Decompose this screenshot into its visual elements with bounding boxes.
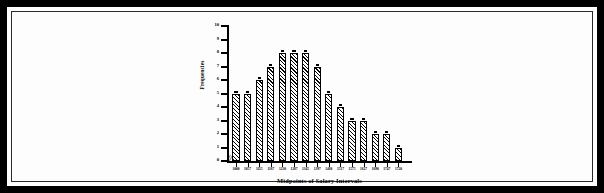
- bar-top-marker: [281, 50, 284, 52]
- y-axis-tick-label: 9: [205, 37, 219, 42]
- histogram-bar: [348, 121, 355, 162]
- histogram-bar: [337, 107, 344, 161]
- histogram-bar: [267, 67, 274, 162]
- y-axis-tick: [221, 106, 228, 108]
- y-axis-tick-label: 7: [205, 64, 219, 69]
- y-axis-tick-label: 1: [205, 145, 219, 150]
- x-axis-tick-label: 1720: [389, 168, 407, 172]
- y-axis-tick-label: 8: [205, 50, 219, 55]
- y-axis-tick: [221, 52, 228, 54]
- histogram-bar: [314, 67, 321, 162]
- bar-top-marker: [327, 91, 330, 93]
- x-axis-line: [227, 161, 412, 163]
- y-axis-tick-label: 0: [205, 158, 219, 163]
- y-axis-tick: [221, 147, 228, 149]
- y-axis-tick: [221, 25, 228, 27]
- histogram-bar: [290, 53, 297, 161]
- histogram-bar: [383, 134, 390, 161]
- y-axis-tick-label: 5: [205, 91, 219, 96]
- bar-top-marker: [385, 131, 388, 133]
- bar-top-marker: [234, 91, 237, 93]
- histogram-plot-area: Frequencies 109876543210 // 100010571115…: [194, 20, 424, 193]
- bar-top-marker: [316, 64, 319, 66]
- y-axis-tick: [221, 39, 228, 41]
- histogram-bar: [325, 94, 332, 162]
- y-axis-tick: [221, 133, 228, 135]
- bar-top-marker: [292, 50, 295, 52]
- histogram-bar: [244, 94, 251, 162]
- figure-inner-panel: Frequencies 109876543210 // 100010571115…: [11, 11, 593, 182]
- bar-top-marker: [258, 77, 261, 79]
- y-axis-tick: [221, 66, 228, 68]
- y-axis-tick: [221, 93, 228, 95]
- histogram-bar: [256, 80, 263, 161]
- histogram-bar: [279, 53, 286, 161]
- y-axis-tick-label: 6: [205, 77, 219, 82]
- bar-top-marker: [339, 104, 342, 106]
- y-axis-tick-label: 10: [205, 23, 219, 28]
- histogram-bar: [372, 134, 379, 161]
- y-axis-tick: [221, 79, 228, 81]
- histogram-bar: [302, 53, 309, 161]
- y-axis-tick-label: 3: [205, 118, 219, 123]
- histogram-bar: [360, 121, 367, 162]
- y-axis-tick: [221, 120, 228, 122]
- bar-top-marker: [374, 131, 377, 133]
- y-axis-tick-label: 2: [205, 131, 219, 136]
- figure-outer-border: Frequencies 109876543210 // 100010571115…: [0, 0, 604, 193]
- bar-top-marker: [397, 145, 400, 147]
- bar-top-marker: [304, 50, 307, 52]
- histogram-bar: [232, 94, 239, 162]
- histogram-bar: [395, 148, 402, 162]
- bar-top-marker: [269, 64, 272, 66]
- bar-top-marker: [362, 118, 365, 120]
- bar-top-marker: [246, 91, 249, 93]
- bar-top-marker: [350, 118, 353, 120]
- y-axis-tick-label: 4: [205, 104, 219, 109]
- x-axis-title: Midpoints of Salary Intervals: [212, 177, 427, 184]
